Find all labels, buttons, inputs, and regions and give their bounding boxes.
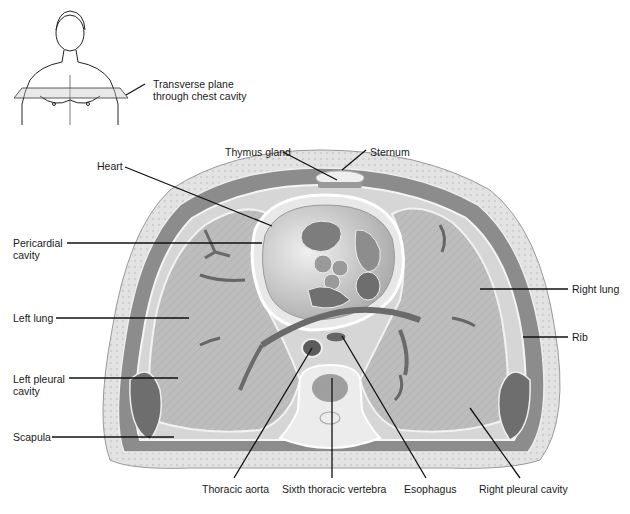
inset-leader-line	[126, 84, 145, 95]
label-scapula: Scapula	[13, 431, 51, 443]
label-left-lung: Left lung	[13, 312, 53, 324]
label-esophagus: Esophagus	[404, 483, 457, 495]
label-sixth-thoracic-vertebra: Sixth thoracic vertebra	[282, 483, 386, 495]
label-sternum: Sternum	[370, 146, 410, 158]
label-right-pleural-cavity: Right pleural cavity	[479, 483, 568, 495]
label-rib: Rib	[572, 331, 588, 343]
label-pericardial-cavity-line1: Pericardial	[13, 237, 63, 249]
label-heart: Heart	[97, 160, 123, 172]
label-thymus-gland: Thymus gland	[225, 146, 291, 158]
label-left-pleural-cavity: Left pleural cavity	[13, 373, 65, 397]
label-left-pleural-cavity-line2: cavity	[13, 385, 65, 397]
label-thoracic-aorta: Thoracic aorta	[202, 483, 269, 495]
transverse-plane-label: Transverse plane through chest cavity	[153, 78, 246, 102]
diagram-stage: Transverse plane through chest cavity Th…	[0, 0, 630, 514]
label-left-pleural-cavity-line1: Left pleural	[13, 373, 65, 385]
label-right-lung: Right lung	[572, 283, 619, 295]
transverse-plane-label-line2: through chest cavity	[153, 90, 246, 102]
transverse-plane-label-line1: Transverse plane	[153, 78, 246, 90]
torso-inset-icon	[14, 11, 128, 125]
label-pericardial-cavity-line2: cavity	[13, 249, 63, 261]
label-pericardial-cavity: Pericardial cavity	[13, 237, 63, 261]
cross-section-illustration	[0, 0, 630, 514]
